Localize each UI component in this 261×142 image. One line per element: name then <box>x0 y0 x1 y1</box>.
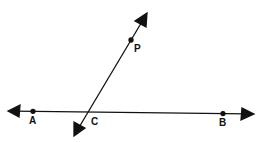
arrowhead-bottom-icon <box>74 122 85 136</box>
label-b: B <box>219 118 226 128</box>
line-ab <box>14 111 247 114</box>
arrowhead-left-icon <box>8 105 20 117</box>
point-a <box>31 109 35 113</box>
arrowhead-right-icon <box>241 108 254 120</box>
label-c: C <box>91 117 98 127</box>
arrowhead-top-icon <box>135 13 147 27</box>
geometry-diagram: A B P C <box>0 0 261 142</box>
label-a: A <box>29 116 36 126</box>
point-p <box>129 38 133 42</box>
label-p: P <box>134 44 141 54</box>
point-b <box>221 112 225 116</box>
